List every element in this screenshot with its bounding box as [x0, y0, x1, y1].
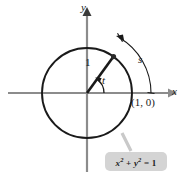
y-axis-label: y	[81, 2, 86, 13]
circle-equation-text: x2 + y2 = 1	[116, 156, 157, 168]
radius-length-label: 1	[85, 57, 91, 68]
equation-callout-box: x2 + y2 = 1	[105, 152, 167, 171]
initial-point-label: (1, 0)	[131, 97, 155, 108]
unit-circle-figure: y x 1 t s (1, 0) x2 + y2 = 1	[0, 0, 185, 182]
arc-length-label: s	[138, 54, 142, 65]
arc-length-indicator	[119, 38, 151, 94]
terminal-point-marker	[111, 54, 116, 59]
central-angle-label: t	[102, 75, 105, 86]
equation-plus: +	[124, 158, 134, 168]
terminal-radius-segment	[87, 57, 114, 93]
equation-equals: = 1	[142, 158, 157, 168]
callout-leader-line	[122, 133, 131, 151]
x-axis-label: x	[172, 86, 177, 97]
